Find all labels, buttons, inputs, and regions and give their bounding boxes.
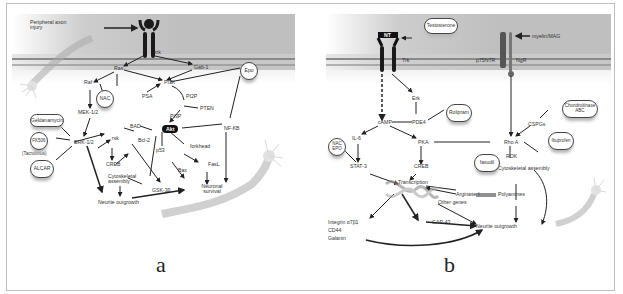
label-rhoa: Rho A [504, 140, 518, 145]
label-pi3p: PI3P [170, 114, 181, 119]
label-pten: PTEN [200, 106, 214, 111]
label-bad: BAD [130, 124, 141, 129]
label-trk: trk [155, 50, 161, 55]
panel-b-diagram: NT Trk p75NTR NgR myelin/MAG Erk PDE4 cA… [326, 14, 611, 224]
label-stat3: STAT-3 [350, 164, 367, 169]
neuron-icon [556, 178, 606, 224]
label-bax: Bax [178, 168, 187, 173]
label-gab1: Gab-1 [194, 65, 208, 70]
drug-rolipram: Rolipram [446, 104, 472, 122]
label-neuronal-survival: Neuronal survival [198, 184, 226, 194]
label-pde4: PDE4 [412, 120, 426, 125]
label-erk: ERK-1/2 [74, 140, 94, 145]
label-ras: Ras [114, 66, 123, 71]
drug-nac-epo: NAC EPO [328, 138, 346, 156]
label-il6: IL-6 [352, 136, 361, 141]
label-galanin: Galanin [328, 236, 346, 241]
drug-nac: NAC [96, 90, 114, 108]
label-rsk: rsk [112, 136, 119, 141]
label-camp: cAMP [378, 120, 392, 125]
label-polyamines: Polyamines [498, 192, 525, 197]
label-erk: Erk [412, 96, 420, 101]
panel-a-diagram: Peripheral axon injury trk Ras Gab-1 Raf… [12, 14, 295, 224]
drug-alcar: ALCAR [30, 160, 54, 178]
label-cd44: CD44 [328, 228, 341, 233]
label-p75ntr: p75NTR [476, 58, 495, 63]
label-forkhead: forkhead [190, 144, 210, 149]
label-peripheral-axon-injury: Peripheral axon injury [30, 20, 70, 30]
drug-fk506: FK506 [30, 132, 48, 150]
akt-node: Akt [162, 125, 178, 133]
label-gap43: GAP-43 [432, 220, 450, 225]
label-transcription: Transcription [398, 180, 428, 185]
drug-chondroitinase-abc: Chondroitinase ABC [562, 100, 598, 118]
label-rok: ROK [506, 154, 517, 159]
label-nt: NT [384, 33, 391, 38]
label-creb: CREB [414, 164, 428, 169]
label-cspgs: CSPGs [528, 122, 545, 127]
label-myelin-mag: myelin/MAG [532, 34, 560, 39]
label-nfkb: NF-KB [224, 126, 240, 131]
label-integrin: Integrin α7β1 [328, 220, 359, 225]
label-neurite-outgrowth: Neurite outgrowth [476, 224, 517, 229]
label-pi2p: PI2P [186, 94, 197, 99]
drug-testosterone: Testosterone [424, 18, 458, 34]
drug-ibuprofen: Ibuprofen [548, 132, 574, 150]
label-tacrolimus: (Tacrolimus) [22, 152, 47, 157]
drug-fasudil: fasudil [474, 154, 500, 172]
label-pka: PKA [418, 140, 428, 145]
label-raf: Raf [84, 80, 92, 85]
drug-epo: Epo [240, 62, 258, 80]
label-neurite-outgrowth: Neurite outgrowth [98, 200, 139, 205]
label-cytoskeletal-assembly: Cytoskeletal assembly [498, 166, 550, 171]
label-bcl2: Bcl-2 [138, 138, 150, 143]
panel-b-caption: b [444, 252, 455, 278]
label-creb: CREB [106, 162, 120, 167]
label-p53: p53 [156, 148, 165, 153]
label-trk: Trk [402, 58, 409, 63]
label-ngr: NgR [516, 58, 526, 63]
label-other-genes: Other genes [438, 200, 467, 205]
label-cytoskeletal-assembly: Cytoskeletal assembly [108, 174, 140, 184]
label-gsk3b: GSK-3β [152, 188, 171, 193]
p75ntr-ngr-receptor-icon [500, 32, 514, 77]
neuron-icon [20, 38, 92, 98]
label-arginase: Arginase I [456, 192, 479, 197]
neuron-icon [162, 140, 283, 214]
label-psa: PSA [142, 94, 152, 99]
label-fasl: FasL [208, 162, 220, 167]
panel-a-caption: a [156, 252, 166, 278]
drug-geldanamycin: Geldanamycin [30, 114, 64, 127]
label-mek: MEK-1/2 [78, 110, 98, 115]
label-pi3k: PI3K [164, 80, 175, 85]
